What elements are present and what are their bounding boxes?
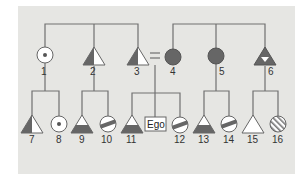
label-9: 9 xyxy=(79,134,85,145)
label-7: 7 xyxy=(29,134,35,145)
ego-label: Ego xyxy=(147,119,165,130)
person-10-female-band xyxy=(98,116,118,132)
person-1-female-dot xyxy=(37,47,53,63)
label-10: 10 xyxy=(101,134,113,145)
label-8: 8 xyxy=(56,134,62,145)
person-3-male-left-dark xyxy=(127,47,149,65)
person-2-male-left-dark xyxy=(83,47,105,65)
person-5-female-solid xyxy=(208,48,224,64)
person-9-male-bottom-dark xyxy=(71,115,93,133)
label-12: 12 xyxy=(174,134,186,145)
person-14-female-band xyxy=(219,116,239,132)
label-15: 15 xyxy=(247,134,259,145)
person-8-female-dot xyxy=(51,116,67,132)
person-12-female-band xyxy=(170,117,190,133)
person-4-female-solid xyxy=(165,49,181,65)
label-11: 11 xyxy=(126,134,137,145)
label-2: 2 xyxy=(90,66,96,77)
label-4: 4 xyxy=(170,66,176,77)
person-6-male-dark-inverted xyxy=(254,47,276,65)
label-3: 3 xyxy=(134,66,140,77)
label-5: 5 xyxy=(219,66,225,77)
person-11-male-bottom-dark xyxy=(121,115,143,133)
label-1: 1 xyxy=(41,66,47,77)
label-6: 6 xyxy=(268,66,274,77)
label-13: 13 xyxy=(198,134,210,145)
label-16: 16 xyxy=(272,134,284,145)
ego-box: Ego xyxy=(145,117,166,131)
person-13-male-bottom-dark xyxy=(193,115,215,133)
label-14: 14 xyxy=(223,134,235,145)
person-7-male-left-dark xyxy=(21,115,43,133)
person-15-male-empty xyxy=(242,115,264,133)
person-16-female-hatched xyxy=(270,116,286,132)
marriage-equals-icon xyxy=(150,53,160,58)
kin-lines xyxy=(32,24,278,118)
kinship-diagram: 1 2 3 4 5 6 Ego xyxy=(0,0,306,178)
